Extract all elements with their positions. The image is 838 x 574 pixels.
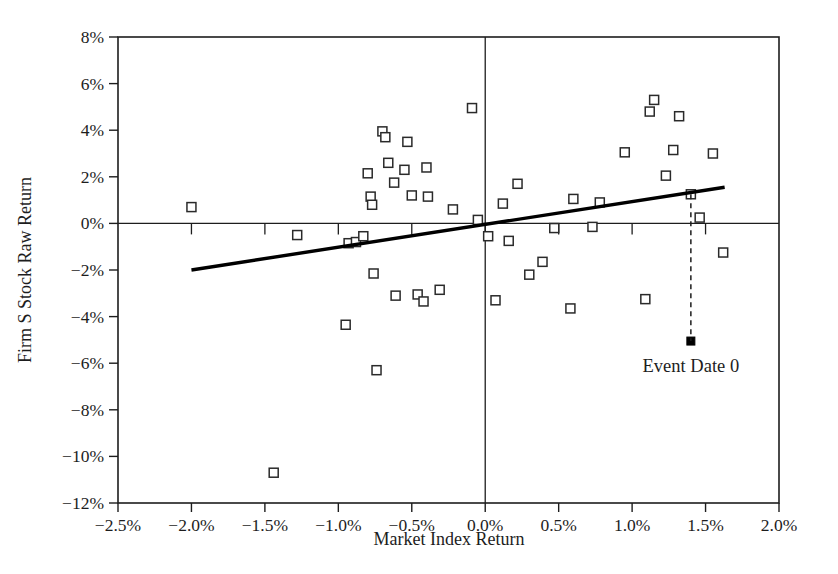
data-point-marker (423, 192, 432, 201)
data-point-marker (641, 295, 650, 304)
data-point-marker (675, 112, 684, 121)
data-point-marker (650, 95, 659, 104)
y-tick-label: −10% (62, 446, 104, 466)
data-point-marker (468, 104, 477, 113)
y-axis-title: Firm S Stock Raw Return (15, 177, 35, 363)
data-point-marker (372, 366, 381, 375)
data-point-marker (491, 296, 500, 305)
data-point-marker (588, 222, 597, 231)
data-point-marker (550, 224, 559, 233)
y-tick-label: −6% (71, 353, 104, 373)
x-tick-label: 1.5% (687, 515, 723, 535)
data-point-marker (419, 297, 428, 306)
data-point-marker (538, 257, 547, 266)
data-point-marker (384, 158, 393, 167)
y-tick-label: 4% (81, 120, 104, 140)
data-point-marker (504, 236, 513, 245)
data-point-marker (391, 291, 400, 300)
data-point-marker (695, 213, 704, 222)
data-point-marker (661, 171, 670, 180)
data-point-marker (341, 320, 350, 329)
annotation-label: Event Date 0 (643, 356, 740, 376)
x-tick-label: 1.0% (614, 515, 650, 535)
data-point-marker (403, 137, 412, 146)
data-point-marker (708, 149, 717, 158)
data-point-marker (269, 468, 278, 477)
data-point-marker (381, 133, 390, 142)
data-point-marker (359, 232, 368, 241)
data-point-marker (435, 285, 444, 294)
data-point-marker (368, 200, 377, 209)
y-tick-label: 0% (81, 213, 104, 233)
x-tick-label: −2.5% (95, 515, 141, 535)
data-point-marker (473, 215, 482, 224)
data-point-marker (566, 304, 575, 313)
data-point-marker (669, 146, 678, 155)
y-tick-label: 2% (81, 167, 104, 187)
data-point-marker (645, 107, 654, 116)
data-point-marker (620, 148, 629, 157)
data-point-marker (363, 169, 372, 178)
y-tick-label: −4% (71, 307, 104, 327)
data-point-marker (400, 165, 409, 174)
y-tick-label: 6% (81, 74, 104, 94)
data-point-marker (498, 199, 507, 208)
data-point-marker (484, 232, 493, 241)
data-point-marker (407, 191, 416, 200)
y-tick-label: −2% (71, 260, 104, 280)
data-point-marker (369, 269, 378, 278)
data-point-marker (187, 203, 196, 212)
data-point-marker (390, 178, 399, 187)
y-tick-label: 8% (81, 27, 104, 47)
x-tick-label: −2.0% (168, 515, 214, 535)
chart-background (0, 0, 838, 574)
data-point-marker (525, 270, 534, 279)
data-point-marker (719, 248, 728, 257)
data-point-marker (569, 194, 578, 203)
x-tick-label: −1.0% (315, 515, 361, 535)
x-tick-label: 2.0% (761, 515, 797, 535)
data-point-marker (448, 205, 457, 214)
data-point-marker (293, 231, 302, 240)
data-point-marker (513, 179, 522, 188)
x-axis-title: Market Index Return (374, 529, 525, 549)
x-tick-label: −1.5% (242, 515, 288, 535)
x-tick-label: 0.5% (540, 515, 576, 535)
y-tick-label: −12% (62, 493, 104, 513)
chart-figure: −2.5%−2.0%−1.5%−1.0%−0.5%0.0%0.5%1.0%1.5… (0, 0, 838, 574)
y-tick-label: −8% (71, 400, 104, 420)
data-point-marker (422, 163, 431, 172)
scatter-plot-svg: −2.5%−2.0%−1.5%−1.0%−0.5%0.0%0.5%1.0%1.5… (0, 0, 838, 574)
